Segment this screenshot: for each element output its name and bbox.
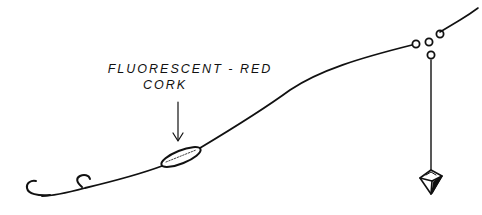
cork-label-line2: CORK [100, 78, 230, 92]
main-line [440, 8, 478, 32]
cork-arrow-icon [173, 102, 183, 141]
fishing-rig-diagram [0, 0, 482, 215]
cork-label-line1: FLUORESCENT - RED [100, 62, 280, 76]
leader-lower [42, 166, 162, 196]
leader [200, 45, 412, 148]
hook-2-icon [77, 175, 90, 187]
cork [159, 143, 203, 171]
three-way-swivel [412, 30, 443, 58]
hook-1-icon [27, 181, 50, 195]
pyramid-sinker-icon [420, 170, 442, 194]
